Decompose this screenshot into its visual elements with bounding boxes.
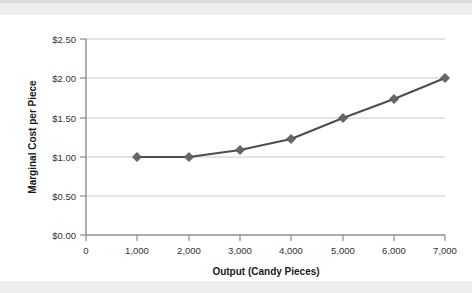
x-axis-tick-labels: 0 1,000 2,000 3,000 4,000 5,000 6,000 7,… (83, 245, 457, 256)
chart-page: $2.50 $2.00 $1.50 $1.00 $0.50 $0.00 0 1,… (0, 0, 472, 293)
x-axis-ticks (86, 235, 445, 241)
data-point-5000 (339, 114, 348, 123)
x-tick-label-2000: 2,000 (177, 245, 201, 256)
y-tick-label-100: $1.00 (52, 152, 76, 163)
y-tick-label-150: $1.50 (52, 113, 76, 124)
y-axis-title: Marginal Cost per Piece (27, 80, 38, 194)
x-tick-label-7000: 7,000 (433, 245, 457, 256)
data-point-2000 (185, 153, 194, 162)
y-tick-label-250: $2.50 (52, 34, 76, 45)
x-tick-label-0: 0 (83, 245, 88, 256)
data-point-6000 (390, 95, 399, 104)
y-axis-ticks (80, 39, 86, 235)
gridlines (86, 39, 445, 196)
x-tick-label-4000: 4,000 (279, 245, 303, 256)
data-point-4000 (287, 135, 296, 144)
x-tick-label-6000: 6,000 (382, 245, 406, 256)
data-point-1000 (133, 153, 142, 162)
y-tick-label-050: $0.50 (52, 191, 76, 202)
y-tick-label-000: $0.00 (52, 230, 76, 241)
marginal-cost-chart: $2.50 $2.00 $1.50 $1.00 $0.50 $0.00 0 1,… (0, 0, 472, 293)
y-axis-tick-labels: $2.50 $2.00 $1.50 $1.00 $0.50 $0.00 (52, 34, 76, 241)
data-point-7000 (441, 74, 450, 83)
x-axis-title: Output (Candy Pieces) (212, 266, 319, 277)
x-tick-label-3000: 3,000 (228, 245, 252, 256)
x-tick-label-1000: 1,000 (125, 245, 149, 256)
x-tick-label-5000: 5,000 (331, 245, 355, 256)
data-point-3000 (236, 146, 245, 155)
y-tick-label-200: $2.00 (52, 73, 76, 84)
